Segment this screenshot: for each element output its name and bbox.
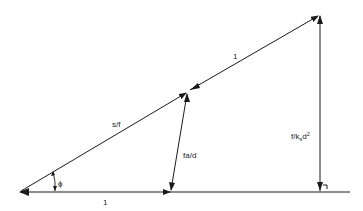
inner-arrowhead-top: [184, 93, 190, 102]
hypotenuse-upper-vector: [190, 16, 318, 90]
label-hypotenuse-lower: s/f: [112, 120, 121, 129]
vector-diagram: s/f 1 1 fa/d ϕ f/ksd2: [0, 0, 363, 211]
label-inner-vector: fa/d: [183, 151, 196, 160]
right-angle-mark: [323, 185, 327, 189]
angle-arrowhead-bottom: [53, 186, 57, 191]
middle-arrowhead: [190, 83, 200, 90]
label-vertical-superscript: 2: [307, 131, 310, 137]
hypotenuse-lower-vector: [21, 93, 186, 191]
label-vertical-vector: f/ksd2: [291, 131, 310, 142]
vertical-arrowhead-bottom: [317, 182, 323, 191]
angle-arrowhead-top: [51, 171, 55, 176]
label-hypotenuse-upper: 1: [233, 52, 238, 61]
inner-arrowhead-bottom: [169, 182, 175, 191]
inner-vector: [171, 94, 187, 190]
label-base: 1: [103, 198, 108, 207]
label-angle: ϕ: [58, 179, 63, 188]
